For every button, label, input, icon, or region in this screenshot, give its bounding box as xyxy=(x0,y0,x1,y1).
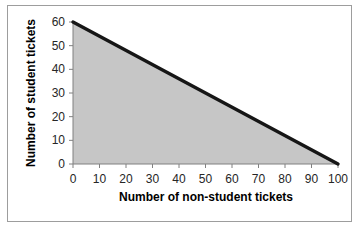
x-tick-label: 50 xyxy=(199,172,213,186)
y-tick-label: 10 xyxy=(52,133,66,147)
x-tick-label: 10 xyxy=(93,172,107,186)
y-tick-label: 50 xyxy=(52,39,66,53)
x-tick-label: 40 xyxy=(172,172,186,186)
x-tick-label: 100 xyxy=(328,172,348,186)
x-tick-label: 90 xyxy=(305,172,319,186)
x-tick-label: 70 xyxy=(252,172,266,186)
x-tick-label: 80 xyxy=(278,172,292,186)
x-tick-label: 60 xyxy=(225,172,239,186)
y-tick-label: 30 xyxy=(52,86,66,100)
x-axis-title: Number of non-student tickets xyxy=(119,190,293,204)
chart-figure: 01020304050600102030405060708090100 Numb… xyxy=(0,0,363,231)
y-tick-label: 40 xyxy=(52,62,66,76)
x-tick-label: 20 xyxy=(119,172,133,186)
y-tick-label: 0 xyxy=(58,157,65,171)
x-tick-label: 30 xyxy=(146,172,160,186)
y-axis-title: Number of student tickets xyxy=(24,19,38,167)
x-tick-label: 0 xyxy=(70,172,77,186)
y-tick-label: 60 xyxy=(52,15,66,29)
y-tick-label: 20 xyxy=(52,110,66,124)
